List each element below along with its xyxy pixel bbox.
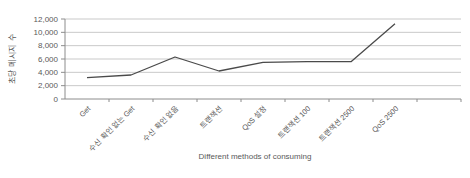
x-category-label: 트랜잭션 2500	[316, 103, 356, 143]
y-tick-label: 6,000	[38, 55, 59, 64]
y-tick-label: 2,000	[38, 81, 59, 90]
y-tick-label: 12,000	[34, 15, 59, 24]
y-tick-label: 4,000	[38, 68, 59, 77]
x-category-label: 수신 확인 없는 Get	[87, 103, 137, 153]
y-tick-label: 10,000	[34, 28, 59, 37]
line-chart-figure: 02,0004,0006,0008,00010,00012,000Get수신 확…	[0, 0, 470, 178]
x-category-label: QoS 2500	[370, 104, 400, 134]
x-category-label: 트랜잭션	[198, 103, 225, 130]
x-category-label: 트랜잭션 100	[275, 103, 312, 140]
y-tick-label: 8,000	[38, 41, 59, 50]
y-axis-title: 초당 메시지 수	[7, 14, 19, 104]
x-axis-title: Different methods of consuming	[135, 152, 375, 161]
y-tick-label: 0	[54, 95, 59, 104]
series-line	[87, 24, 395, 78]
x-category-label: QoS 설정	[239, 103, 268, 132]
x-category-label: Get	[77, 103, 93, 119]
x-category-label: 수신 확인 없음	[141, 103, 181, 143]
